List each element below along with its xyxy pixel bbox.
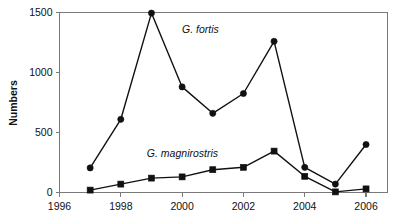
series-layer [87,10,369,195]
y-tick-label: 1000 [29,66,53,78]
x-axis-ticks [60,193,367,197]
series-label-g-fortis: G. fortis [182,23,220,35]
data-point-circle [179,84,185,90]
data-point-circle [210,110,216,116]
data-point-square [210,167,216,173]
x-tick-label: 2002 [232,200,256,212]
data-point-square [179,174,185,180]
data-point-square [302,173,308,179]
data-point-square [148,175,154,181]
data-point-circle [271,38,277,44]
x-tick-label: 2004 [293,200,317,212]
series-g-magnirostris [87,148,369,195]
data-point-square [240,164,246,170]
data-point-circle [363,141,369,147]
y-tick-label: 500 [35,126,53,138]
y-tick-label: 1500 [29,6,53,18]
data-point-circle [240,90,246,96]
data-point-square [271,148,277,154]
data-point-square [118,181,124,187]
x-tick-label: 1998 [109,200,133,212]
series-g-fortis [87,10,369,187]
series-line [90,151,366,192]
chart-figure: 050010001500 199619982000200220042006 G.… [0,0,405,222]
series-line [90,13,366,184]
plot-frame [60,13,388,193]
data-point-circle [148,10,154,16]
y-tick-label: 0 [47,186,53,198]
data-point-circle [302,164,308,170]
data-point-circle [87,165,93,171]
x-axis-tick-labels: 199619982000200220042006 [48,200,378,212]
x-tick-label: 2006 [354,200,378,212]
series-annotations: G. fortisG. magnirostris [147,23,220,159]
y-axis-title: Numbers [7,80,19,126]
x-tick-label: 1996 [48,200,72,212]
data-point-circle [118,116,124,122]
data-point-square [363,186,369,192]
y-axis-ticks [56,13,60,193]
axis-frame [60,13,388,193]
data-point-square [87,187,93,193]
y-axis-tick-labels: 050010001500 [29,6,53,198]
line-chart: 050010001500 199619982000200220042006 G.… [0,0,405,222]
x-tick-label: 2000 [170,200,194,212]
series-label-g-magnirostris: G. magnirostris [147,147,219,159]
data-point-square [332,189,338,195]
data-point-circle [332,181,338,187]
